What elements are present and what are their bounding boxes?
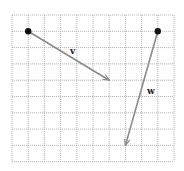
vector-w-start-point — [155, 28, 161, 34]
vector-w: w — [125, 28, 161, 145]
vector-w-label: w — [146, 86, 155, 96]
vector-v-arrow — [28, 31, 109, 80]
vector-v-label: v — [69, 46, 76, 56]
vector-v: v — [25, 28, 109, 80]
vector-diagram: v w — [0, 0, 184, 171]
vector-v-start-point — [25, 28, 31, 34]
